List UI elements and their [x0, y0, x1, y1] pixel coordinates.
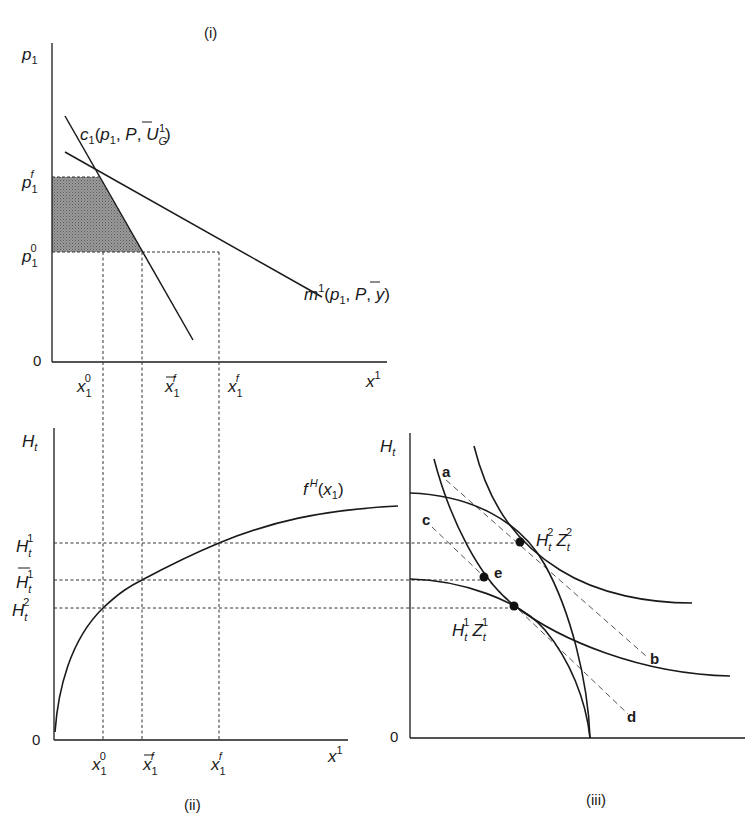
label-d: d	[627, 708, 636, 725]
panel-ii-caption: (ii)	[184, 796, 201, 813]
panel-i-caption: (i)	[204, 24, 217, 41]
label-H2Z2: Ht2Zt2	[536, 526, 572, 553]
panel-ii: Ht x1 0 Ht1 Ht1 Ht2 x10 x1f x1f fH(x1) (…	[12, 428, 520, 813]
x1f-label: x1f	[227, 372, 243, 399]
panel-ii-x1f-label: x1f	[210, 750, 226, 777]
production-function-curve	[55, 506, 398, 732]
label-e: e	[494, 564, 502, 581]
label-a: a	[442, 463, 451, 480]
panel-i-origin: 0	[33, 352, 41, 369]
compensated-demand-label: c1(p1, P, UG1)	[80, 122, 171, 147]
panel-ii-y-axis-label: Ht	[22, 432, 38, 453]
x10-label: x10	[76, 372, 92, 399]
indifference-curve-1	[434, 459, 730, 676]
label-c: c	[422, 511, 430, 528]
panel-iii-caption: (iii)	[586, 791, 606, 808]
indifference-curve-2	[474, 446, 692, 603]
production-function-label: fH(x1)	[303, 477, 344, 501]
p10-label: p10	[21, 242, 38, 269]
production-possibility-frontier-2	[410, 493, 590, 738]
xbar1f-label: x1f	[164, 372, 180, 399]
panel-ii-x10-label: x10	[91, 750, 107, 777]
panel-iii-y-axis-label: Ht	[380, 437, 396, 458]
panel-iii: Ht 0 a b c d e Ht2Zt2 Ht1Zt1 (iii)	[380, 433, 745, 808]
H1-label: Ht1	[16, 532, 33, 559]
panel-ii-origin: 0	[32, 731, 40, 748]
svg-text:c1(p1, P, UG1): c1(p1, P, UG1)	[80, 122, 171, 147]
point-H1Z1	[510, 602, 519, 611]
panel-i: (i) p1 x1 0 p1f p10 x10 x1f x1f c1(p1, P…	[21, 24, 390, 740]
marshallian-demand-label: m1(p1, P, y)	[304, 282, 390, 306]
point-H2Z2	[516, 538, 525, 547]
label-H1Z1: Ht1Zt1	[452, 616, 488, 643]
panel-iii-origin: 0	[390, 728, 398, 745]
label-b: b	[650, 650, 659, 667]
svg-text:m1(p1, P, y): m1(p1, P, y)	[304, 282, 390, 306]
Hbar1-label: Ht1	[16, 568, 33, 595]
panel-i-y-axis-label: p1	[21, 45, 38, 66]
panel-ii-x-axis-label: x1	[327, 744, 343, 766]
panel-ii-xbar1f-label: x1f	[142, 750, 158, 777]
figure-canvas: (i) p1 x1 0 p1f p10 x10 x1f x1f c1(p1, P…	[0, 0, 753, 825]
H2-label: Ht2	[12, 596, 29, 623]
point-e	[480, 573, 489, 582]
p1f-label: p1f	[21, 168, 38, 195]
panel-i-x-axis-label: x1	[365, 369, 381, 391]
